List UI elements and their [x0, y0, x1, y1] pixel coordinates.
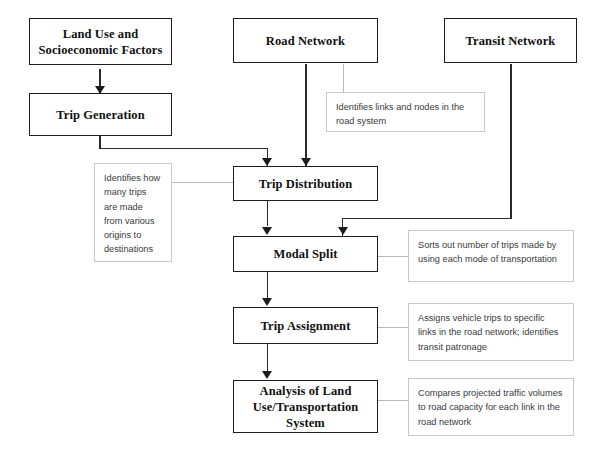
note-road-network: Identifies links and nodes in the road s…: [326, 92, 485, 132]
node-analysis-of-land-use-transportation-system[interactable]: Analysis of Land Use/Transportation Syst…: [233, 380, 378, 433]
note-trip-distribution: Identifies how many trips are made from …: [94, 163, 172, 262]
node-analysis-label-line1: Analysis of Land: [238, 383, 373, 399]
note-trip-assignment: Assigns vehicle trips to specific links …: [408, 303, 574, 361]
leader-note-tripassignment: [378, 327, 408, 328]
node-trip-generation[interactable]: Trip Generation: [29, 93, 172, 136]
note-analysis: Compares projected traffic volumes to ro…: [408, 378, 574, 436]
node-transit-network-label: Transit Network: [449, 33, 572, 49]
connector-transitnetwork-down: [510, 64, 511, 219]
node-land-use-label-line1: Land Use and: [34, 26, 167, 42]
node-land-use-label-line2: Socioeconomic Factors: [34, 42, 167, 58]
arrowhead-tripgeneration-to-tripdistribution: [262, 158, 272, 166]
node-trip-generation-label: Trip Generation: [34, 107, 167, 123]
note-trip-distribution-text: Identifies how many trips are made from …: [104, 173, 160, 254]
connector-tripassignment-to-analysis: [267, 343, 268, 373]
note-modal-split: Sorts out number of trips made by using …: [408, 230, 574, 282]
note-trip-assignment-text: Assigns vehicle trips to specific links …: [418, 313, 558, 352]
arrowhead-roadnetwork-to-tripdistribution: [301, 158, 311, 166]
node-road-network-label: Road Network: [238, 33, 373, 49]
node-road-network[interactable]: Road Network: [233, 18, 378, 63]
node-trip-assignment[interactable]: Trip Assignment: [233, 307, 378, 344]
leader-note-tripdistribution: [172, 182, 233, 183]
node-modal-split[interactable]: Modal Split: [233, 236, 378, 272]
arrowhead-tripassignment-to-analysis: [262, 371, 272, 379]
connector-tripdistribution-to-modalsplit: [267, 200, 268, 226]
connector-transitnetwork-left: [342, 218, 511, 219]
note-analysis-text: Compares projected traffic volumes to ro…: [418, 388, 562, 427]
note-modal-split-text: Sorts out number of trips made by using …: [418, 240, 557, 264]
connector-roadnetwork-to-note: [343, 64, 344, 92]
node-trip-distribution[interactable]: Trip Distribution: [233, 166, 378, 201]
node-trip-distribution-label: Trip Distribution: [238, 176, 373, 192]
flowchart-canvas: Land Use and Socioeconomic Factors Road …: [0, 0, 603, 470]
connector-roadnetwork-to-tripdistribution: [305, 64, 306, 167]
leader-note-analysis: [378, 400, 408, 401]
arrowhead-tripdistribution-to-modalsplit: [262, 227, 272, 235]
node-modal-split-label: Modal Split: [238, 246, 373, 262]
arrowhead-transitnetwork-to-modalsplit: [338, 227, 348, 235]
note-road-network-text: Identifies links and nodes in the road s…: [336, 102, 464, 126]
node-analysis-label-line2: Use/Transportation: [238, 399, 373, 415]
leader-note-modalsplit: [378, 256, 408, 257]
node-transit-network[interactable]: Transit Network: [444, 18, 577, 63]
connector-tripgeneration-right: [99, 148, 267, 149]
arrowhead-modalsplit-to-tripassignment: [262, 298, 272, 306]
node-land-use-and-socioeconomic-factors[interactable]: Land Use and Socioeconomic Factors: [29, 18, 172, 65]
node-trip-assignment-label: Trip Assignment: [238, 318, 373, 334]
connector-modalsplit-to-tripassignment: [267, 271, 268, 298]
node-analysis-label-line3: System: [238, 415, 373, 431]
